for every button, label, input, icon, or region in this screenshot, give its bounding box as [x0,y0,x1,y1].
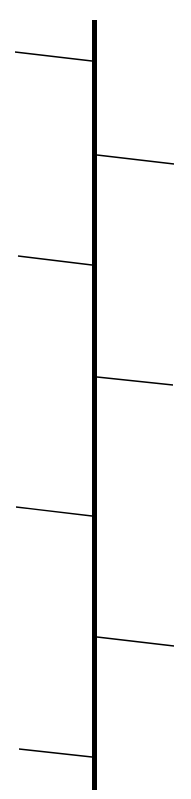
branch-line-right-2 [97,155,174,164]
branch-line-left-5 [16,507,92,516]
branch-line-left-1 [15,52,92,61]
branching-line-diagram [0,0,191,799]
branch-line-right-4 [97,377,173,385]
branch-line-left-3 [18,256,92,265]
branch-line-left-7 [19,749,92,757]
branch-line-right-6 [97,637,174,646]
